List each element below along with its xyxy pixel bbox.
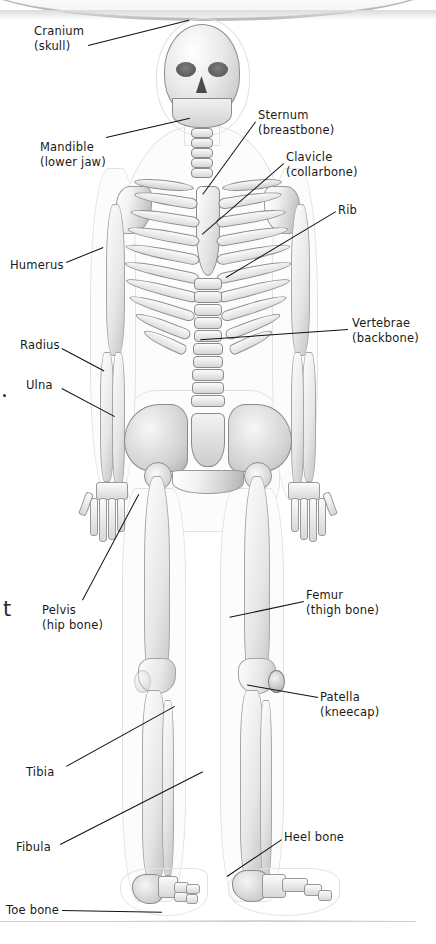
- label-heel-bone[interactable]: Heel bone: [284, 830, 344, 845]
- scan-artifact-dot: [3, 394, 6, 397]
- eye-socket-left: [176, 62, 196, 77]
- label-clavicle[interactable]: Clavicle (collarbone): [286, 150, 358, 179]
- label-mandible-line2: (lower jaw): [40, 155, 106, 170]
- label-femur-line1: Femur: [306, 588, 343, 602]
- label-ulna[interactable]: Ulna: [26, 378, 53, 393]
- hand-phalanx-left: [99, 498, 107, 542]
- label-cranium[interactable]: Cranium (skull): [34, 24, 84, 53]
- ulna-left: [112, 352, 125, 488]
- label-sternum-line2: (breastbone): [258, 123, 334, 138]
- label-ulna-line1: Ulna: [26, 378, 53, 392]
- mandible-bone: [172, 98, 232, 128]
- hand-phalanx-right: [291, 498, 299, 532]
- label-toe-bone-line1: Toe bone: [6, 903, 59, 917]
- lumbar-vertebra: [192, 382, 224, 394]
- label-toe-bone[interactable]: Toe bone: [6, 903, 59, 918]
- label-patella[interactable]: Patella (kneecap): [320, 690, 380, 719]
- eye-socket-right: [208, 62, 228, 77]
- label-sternum[interactable]: Sternum (breastbone): [258, 108, 334, 137]
- label-cranium-line1: Cranium: [34, 24, 84, 38]
- pubis-bone: [172, 470, 244, 494]
- lumbar-vertebra: [192, 369, 224, 381]
- cervical-vertebra: [191, 168, 213, 178]
- label-heel-bone-line1: Heel bone: [284, 830, 344, 844]
- lumbar-vertebra: [193, 343, 223, 355]
- toe-bone-left: [186, 894, 198, 904]
- label-pelvis-line2: (hip bone): [42, 618, 103, 633]
- label-patella-line1: Patella: [320, 690, 360, 704]
- label-cranium-line2: (skull): [34, 39, 84, 54]
- cervical-vertebra: [191, 158, 213, 168]
- label-mandible[interactable]: Mandible (lower jaw): [40, 140, 106, 169]
- humerus-left: [106, 204, 125, 356]
- femur-right: [244, 476, 270, 688]
- ulna-right: [291, 352, 304, 488]
- lumbar-vertebra: [191, 395, 225, 407]
- hand-phalanx-right: [300, 498, 308, 540]
- label-patella-line2: (kneecap): [320, 705, 380, 720]
- label-rib[interactable]: Rib: [338, 203, 357, 218]
- lumbar-vertebra: [193, 356, 223, 368]
- femur-left: [144, 476, 170, 688]
- lumbar-vertebra: [194, 330, 222, 342]
- label-clavicle-line2: (collarbone): [286, 165, 358, 180]
- label-femur[interactable]: Femur (thigh bone): [306, 588, 379, 617]
- label-femur-line2: (thigh bone): [306, 603, 379, 618]
- label-fibula[interactable]: Fibula: [16, 840, 51, 855]
- label-vertebrae-line2: (backbone): [352, 331, 419, 346]
- label-radius[interactable]: Radius: [20, 338, 60, 353]
- label-humerus-line1: Humerus: [10, 258, 64, 272]
- label-radius-line1: Radius: [20, 338, 60, 352]
- toe-bone-left: [186, 884, 200, 894]
- hand-phalanx-left: [90, 498, 98, 536]
- lumbar-vertebra: [194, 304, 222, 316]
- lumbar-vertebra: [194, 278, 222, 290]
- label-tibia[interactable]: Tibia: [26, 765, 54, 780]
- label-sternum-line1: Sternum: [258, 108, 309, 122]
- cervical-vertebra: [191, 128, 213, 138]
- lumbar-vertebra: [194, 291, 222, 303]
- label-pelvis-line1: Pelvis: [42, 603, 76, 617]
- lumbar-vertebra: [194, 317, 222, 329]
- sacrum-bone: [191, 413, 225, 467]
- label-rib-line1: Rib: [338, 203, 357, 217]
- toe-bone-right: [318, 890, 332, 901]
- hand-phalanx-left: [108, 498, 116, 540]
- sternum-bone: [196, 186, 220, 276]
- radius-right: [302, 352, 316, 482]
- label-humerus[interactable]: Humerus: [10, 258, 64, 273]
- label-fibula-line1: Fibula: [16, 840, 51, 854]
- cervical-vertebra: [191, 148, 213, 158]
- page-edge-bottom: [0, 921, 416, 944]
- cut-off-letter-t: t: [3, 597, 11, 621]
- label-clavicle-line1: Clavicle: [286, 150, 332, 164]
- label-vertebrae[interactable]: Vertebrae (backbone): [352, 316, 419, 345]
- cervical-vertebra: [191, 138, 213, 148]
- label-tibia-line1: Tibia: [26, 765, 54, 779]
- label-pelvis[interactable]: Pelvis (hip bone): [42, 603, 103, 632]
- hand-phalanx-right: [309, 498, 317, 542]
- label-vertebrae-line1: Vertebrae: [352, 316, 410, 330]
- label-mandible-line1: Mandible: [40, 140, 94, 154]
